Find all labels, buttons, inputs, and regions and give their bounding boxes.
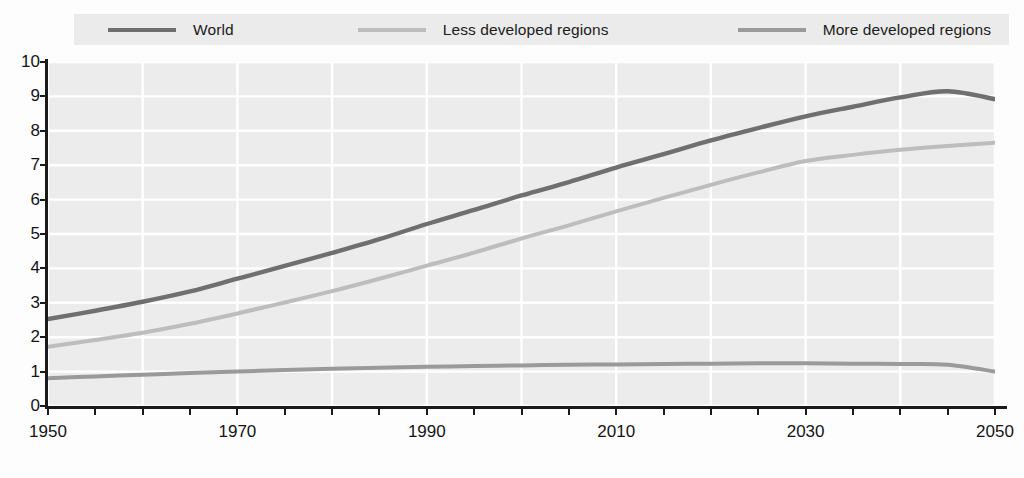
y-tick-label: 10 xyxy=(4,53,40,70)
x-tick-mark xyxy=(994,407,996,415)
x-tick-mark xyxy=(331,407,333,415)
legend-item-more-developed: More developed regions xyxy=(738,14,992,45)
x-tick-mark xyxy=(236,407,238,415)
x-tick-label: 1970 xyxy=(218,423,256,440)
y-tick-label: 3 xyxy=(4,294,40,311)
chart-legend: World Less developed regions More develo… xyxy=(74,14,1009,45)
x-tick-mark xyxy=(473,407,475,415)
x-tick-mark xyxy=(426,407,428,415)
x-axis-tick-marks xyxy=(0,407,1024,417)
plot-area xyxy=(48,62,995,406)
y-tick-mark xyxy=(40,164,48,166)
y-tick-label: 5 xyxy=(4,225,40,242)
x-tick-label: 1990 xyxy=(408,423,446,440)
plot-canvas xyxy=(48,62,995,406)
legend-swatch-world-icon xyxy=(108,28,176,32)
x-tick-mark xyxy=(94,407,96,415)
y-tick-mark xyxy=(40,130,48,132)
x-tick-label: 2050 xyxy=(976,423,1014,440)
y-tick-label: 8 xyxy=(4,122,40,139)
x-tick-label: 1950 xyxy=(29,423,67,440)
x-tick-mark xyxy=(568,407,570,415)
legend-item-less-developed: Less developed regions xyxy=(358,14,609,45)
y-tick-label: 1 xyxy=(4,363,40,380)
x-tick-mark xyxy=(947,407,949,415)
legend-swatch-more-developed-icon xyxy=(738,28,806,32)
y-tick-mark xyxy=(40,95,48,97)
x-tick-mark xyxy=(189,407,191,415)
y-tick-mark xyxy=(40,61,48,63)
x-tick-mark xyxy=(615,407,617,415)
y-tick-label: 4 xyxy=(4,259,40,276)
legend-label-less-developed: Less developed regions xyxy=(443,21,609,39)
y-tick-mark xyxy=(40,267,48,269)
y-tick-mark xyxy=(40,199,48,201)
y-tick-mark xyxy=(40,336,48,338)
x-tick-mark xyxy=(852,407,854,415)
y-tick-label: 6 xyxy=(4,191,40,208)
population-projection-chart: World Less developed regions More develo… xyxy=(0,0,1024,478)
x-tick-mark xyxy=(142,407,144,415)
x-axis-tick-labels: 195019701990201020302050 xyxy=(0,423,1024,447)
y-tick-label: 7 xyxy=(4,156,40,173)
x-tick-mark xyxy=(710,407,712,415)
x-tick-mark xyxy=(663,407,665,415)
x-tick-label: 2030 xyxy=(787,423,825,440)
x-tick-mark xyxy=(805,407,807,415)
legend-label-more-developed: More developed regions xyxy=(823,21,992,39)
legend-item-world: World xyxy=(108,14,234,45)
x-tick-mark xyxy=(47,407,49,415)
y-tick-label: 2 xyxy=(4,328,40,345)
x-tick-mark xyxy=(284,407,286,415)
y-tick-mark xyxy=(40,233,48,235)
legend-label-world: World xyxy=(193,21,234,39)
x-tick-mark xyxy=(757,407,759,415)
y-tick-mark xyxy=(40,371,48,373)
x-tick-mark xyxy=(899,407,901,415)
legend-swatch-less-developed-icon xyxy=(358,28,426,32)
x-tick-label: 2010 xyxy=(597,423,635,440)
x-tick-mark xyxy=(521,407,523,415)
y-tick-mark xyxy=(40,302,48,304)
x-tick-mark xyxy=(378,407,380,415)
y-tick-label: 9 xyxy=(4,87,40,104)
